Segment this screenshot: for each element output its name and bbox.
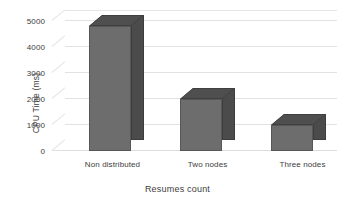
x-axis-tick-label: Two nodes (166, 160, 250, 169)
bar-front-face (89, 26, 131, 151)
chart-container: CPU Time (ms) 010002000300040005000 Non … (0, 0, 355, 206)
y-axis-tick-label: 3000 (27, 69, 45, 78)
x-axis-tick-label: Three nodes (261, 160, 345, 169)
bar[interactable] (89, 15, 131, 151)
y-axis-tick-label: 2000 (27, 95, 45, 104)
bar-front-face (271, 125, 313, 151)
y-axis-tick-label: 5000 (27, 17, 45, 26)
y-axis-tick-label: 0 (40, 147, 45, 156)
y-axis-tick-label: 1000 (27, 121, 45, 130)
x-axis-tick-label: Non distributed (71, 160, 155, 169)
gridline-depth-connector (52, 61, 66, 73)
bar-side-face (131, 15, 144, 140)
bars-group (65, 10, 337, 151)
x-axis-title: Resumes count (0, 184, 355, 194)
gridline-depth-connector (52, 9, 66, 21)
gridline-depth-connector (52, 35, 66, 47)
bar[interactable] (180, 88, 222, 151)
y-axis-tick-label: 4000 (27, 43, 45, 52)
bar[interactable] (271, 114, 313, 151)
bar-front-face (180, 99, 222, 151)
bar-slot (174, 10, 228, 151)
gridline-depth-connector (52, 113, 66, 125)
gridline-depth-connector (52, 87, 66, 99)
plot-area: 010002000300040005000 (52, 10, 337, 151)
x-axis-ticks: Non distributedTwo nodesThree nodes (65, 160, 350, 169)
bar-slot (265, 10, 319, 151)
bar-slot (83, 10, 137, 151)
